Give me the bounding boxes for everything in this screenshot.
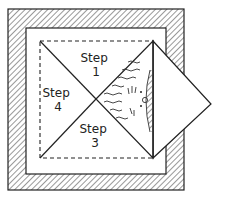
folding-diagram: Step 1 Step 4 Step 3	[0, 0, 225, 199]
